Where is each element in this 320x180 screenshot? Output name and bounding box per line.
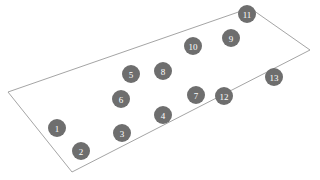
node-10[interactable]: 10	[184, 37, 202, 55]
node-6[interactable]: 6	[112, 90, 130, 108]
node-1-label: 1	[55, 124, 60, 134]
node-8[interactable]: 8	[154, 62, 172, 80]
node-4[interactable]: 4	[154, 106, 172, 124]
node-13[interactable]: 13	[265, 68, 283, 86]
node-1[interactable]: 1	[48, 119, 66, 137]
parallelogram-outline	[8, 8, 310, 172]
node-2[interactable]: 2	[72, 142, 90, 160]
node-6-label: 6	[119, 95, 124, 105]
node-5[interactable]: 5	[122, 65, 140, 83]
node-layer: 12345678910111213	[48, 5, 283, 160]
diagram-canvas: 12345678910111213	[0, 0, 320, 180]
node-12-label: 12	[220, 92, 229, 102]
scene-svg: 12345678910111213	[0, 0, 320, 180]
node-12[interactable]: 12	[215, 87, 233, 105]
node-7[interactable]: 7	[187, 86, 205, 104]
node-11-label: 11	[243, 10, 252, 20]
node-10-label: 10	[189, 42, 199, 52]
node-2-label: 2	[79, 147, 84, 157]
node-4-label: 4	[161, 111, 166, 121]
node-8-label: 8	[161, 67, 166, 77]
node-13-label: 13	[270, 73, 280, 83]
node-11[interactable]: 11	[238, 5, 256, 23]
node-3-label: 3	[120, 129, 125, 139]
node-5-label: 5	[129, 70, 134, 80]
node-9-label: 9	[229, 34, 234, 44]
node-7-label: 7	[194, 91, 199, 101]
node-9[interactable]: 9	[222, 29, 240, 47]
node-3[interactable]: 3	[113, 124, 131, 142]
